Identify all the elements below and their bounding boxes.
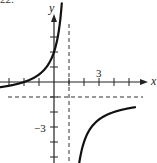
y-tick-label-neg3: −3 xyxy=(34,122,46,134)
axes xyxy=(0,14,148,163)
y-axis-arrow-icon xyxy=(51,14,57,22)
asymptotes xyxy=(8,24,143,163)
x-axis-arrow-icon xyxy=(140,79,148,85)
left-branch-curve xyxy=(0,3,62,87)
right-branch-curve xyxy=(79,107,135,163)
curves xyxy=(0,3,135,163)
y-axis-label: y xyxy=(48,1,55,15)
function-graph: y x 3 −3 xyxy=(0,0,157,163)
x-tick-label-3: 3 xyxy=(96,67,102,79)
x-axis-label: x xyxy=(150,74,157,88)
